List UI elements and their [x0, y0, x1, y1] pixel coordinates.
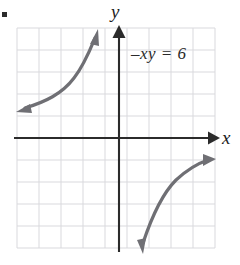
- curve-arrowhead-lower-left: [16, 104, 32, 113]
- graph-figure: y x –xy = 6: [0, 0, 240, 265]
- x-axis-label: x: [222, 128, 230, 147]
- curve-arrowhead-bottom: [137, 238, 146, 254]
- equation-label: –xy = 6: [131, 44, 187, 64]
- y-axis-label: y: [111, 2, 119, 21]
- coordinate-plane-graph: [0, 0, 240, 265]
- curve-arrowhead-right: [203, 154, 216, 166]
- x-axis-arrowhead: [208, 132, 220, 145]
- bullet-marker: [2, 12, 7, 17]
- axes: [14, 25, 220, 252]
- y-axis-arrowhead: [113, 25, 126, 38]
- curve-arrowhead-upper-right: [90, 29, 99, 46]
- curve-branch-quadrant-2: [16, 29, 99, 113]
